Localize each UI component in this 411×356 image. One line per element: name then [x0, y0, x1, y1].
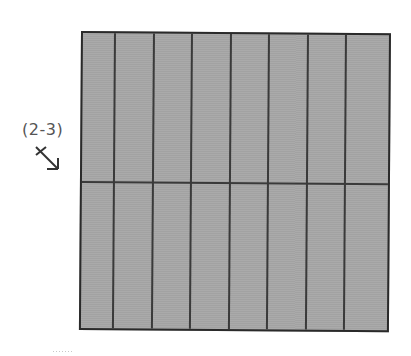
diagram-label: (2-3) [22, 120, 63, 139]
shaded-grid-square [79, 31, 391, 332]
diagonal-arrow-down-right-icon [34, 145, 62, 173]
scan-artifact-dots [52, 350, 74, 353]
grid-row-divider [82, 181, 388, 185]
